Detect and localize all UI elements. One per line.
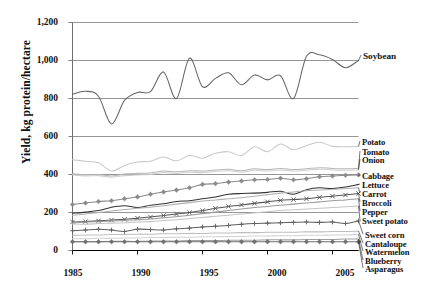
data-point-marker — [174, 226, 179, 231]
data-point-marker — [122, 229, 127, 234]
data-point-marker — [70, 239, 75, 244]
series-watermelon — [73, 235, 359, 239]
data-point-marker — [83, 201, 88, 206]
data-point-marker — [148, 239, 153, 244]
data-point-marker — [239, 222, 244, 227]
data-point-marker — [343, 221, 348, 226]
series-broccoli — [70, 191, 360, 224]
leader-line-soybean — [359, 55, 362, 61]
data-point-marker — [174, 239, 179, 244]
series-line — [73, 52, 359, 123]
series-line — [73, 188, 359, 215]
data-point-marker — [109, 228, 114, 233]
series-label-soybean: Soybean — [363, 51, 396, 61]
data-point-marker — [148, 227, 153, 232]
series-potato — [73, 142, 359, 171]
series-cantaloupe — [73, 231, 359, 235]
series-label-sweet-potato: Sweet potato — [362, 217, 408, 226]
data-point-marker — [304, 220, 309, 225]
data-point-marker — [330, 239, 335, 244]
data-point-marker — [304, 176, 309, 181]
data-point-marker — [96, 239, 101, 244]
data-point-marker — [174, 188, 179, 193]
data-point-marker — [213, 224, 218, 229]
data-point-marker — [161, 228, 166, 233]
data-point-marker — [70, 202, 75, 207]
data-point-marker — [148, 192, 153, 197]
data-point-marker — [161, 190, 166, 195]
data-point-marker — [226, 223, 231, 228]
data-point-marker — [187, 226, 192, 231]
data-point-marker — [317, 239, 322, 244]
leader-line-potato — [359, 141, 361, 146]
data-point-marker — [265, 221, 270, 226]
data-point-marker — [109, 239, 114, 244]
data-point-marker — [330, 220, 335, 225]
series-soybean — [73, 52, 359, 123]
data-point-marker — [109, 198, 114, 203]
data-point-marker — [200, 225, 205, 230]
series-label-onion: Onion — [362, 156, 384, 165]
data-point-marker — [83, 228, 88, 233]
data-point-marker — [213, 181, 218, 186]
data-point-marker — [83, 239, 88, 244]
data-point-marker — [343, 173, 348, 178]
data-point-marker — [252, 221, 257, 226]
data-point-marker — [291, 178, 296, 183]
series-line — [73, 235, 359, 239]
data-point-marker — [317, 220, 322, 225]
data-point-marker — [278, 220, 283, 225]
series-asparagus — [70, 239, 361, 244]
data-point-marker — [317, 174, 322, 179]
data-point-marker — [122, 239, 127, 244]
data-point-marker — [200, 182, 205, 187]
leader-line-asparagus — [359, 242, 364, 268]
series-line — [73, 142, 359, 171]
data-point-marker — [343, 239, 348, 244]
data-point-marker — [291, 220, 296, 225]
data-point-marker — [226, 180, 231, 185]
data-point-marker — [239, 179, 244, 184]
chart-container: Yield, kg protein/hectare 1,200 1,000 80… — [0, 0, 434, 295]
series-label-asparagus: Asparagus — [365, 265, 403, 274]
data-point-marker — [135, 195, 140, 200]
data-point-marker — [161, 239, 166, 244]
data-point-marker — [96, 199, 101, 204]
series-line — [73, 231, 359, 235]
data-point-marker — [265, 177, 270, 182]
data-point-marker — [70, 228, 75, 233]
data-point-marker — [252, 178, 257, 183]
data-point-marker — [278, 176, 283, 181]
data-point-marker — [187, 186, 192, 191]
data-point-marker — [135, 239, 140, 244]
series-carrot — [73, 188, 359, 215]
data-point-marker — [122, 197, 127, 202]
data-point-marker — [96, 227, 101, 232]
series-label-potato: Potato — [362, 138, 385, 147]
data-point-marker — [304, 239, 309, 244]
data-point-marker — [135, 227, 140, 232]
